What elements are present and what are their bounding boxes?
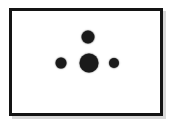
dot-left — [56, 58, 67, 69]
panel-frame — [9, 8, 163, 116]
figure-root — [0, 0, 175, 125]
panel-canvas — [12, 11, 160, 113]
dot-right — [109, 58, 119, 68]
dot-center — [80, 54, 99, 73]
dot-top — [82, 31, 95, 44]
